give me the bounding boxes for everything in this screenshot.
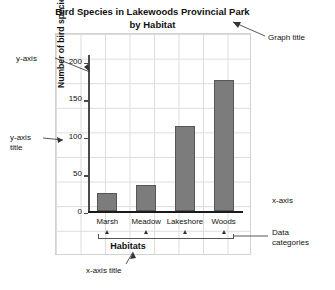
category-pointer-icon bbox=[105, 230, 109, 234]
x-axis-category-label: Marsh bbox=[97, 217, 119, 226]
graph-title-line-2: by Habitat bbox=[40, 18, 265, 31]
category-pointer-icon bbox=[222, 230, 226, 234]
x-axis-title: Habitats bbox=[110, 241, 146, 251]
bar bbox=[175, 126, 195, 211]
category-pointer-icon bbox=[144, 230, 148, 234]
bar bbox=[97, 193, 117, 212]
y-axis-tick-label: 0 bbox=[78, 207, 82, 216]
category-pointer-icon bbox=[183, 230, 187, 234]
bar-series bbox=[88, 55, 243, 211]
data-categories-bracket bbox=[98, 234, 234, 239]
graph-title: Bird Species in Lakewoods Provincial Par… bbox=[40, 5, 265, 31]
bar bbox=[214, 80, 234, 212]
bar bbox=[136, 185, 156, 211]
y-axis-tick-label: 100 bbox=[69, 132, 82, 141]
annotation-y-axis-title: y-axis title bbox=[10, 133, 31, 153]
x-axis-line bbox=[88, 211, 243, 213]
graph-title-line-1: Bird Species in Lakewoods Provincial Par… bbox=[40, 5, 265, 18]
y-axis-tick-mark bbox=[84, 213, 88, 214]
x-axis-category-label: Woods bbox=[212, 217, 236, 226]
plot-area: 050100150200 bbox=[88, 55, 243, 213]
annotation-graph-title: Graph title bbox=[268, 33, 305, 43]
y-axis-tick-label: 150 bbox=[69, 94, 82, 103]
y-axis-tick-label: 200 bbox=[69, 57, 82, 66]
x-axis-category-label: Meadow bbox=[131, 217, 160, 226]
chart-figure: Bird Species in Lakewoods Provincial Par… bbox=[0, 0, 335, 290]
y-axis-title: Number of bird species bbox=[56, 0, 66, 88]
annotation-x-axis: x-axis bbox=[272, 196, 293, 206]
y-axis-tick-mark bbox=[84, 138, 88, 139]
y-axis-tick-mark bbox=[84, 63, 88, 64]
annotation-y-axis: y-axis bbox=[16, 54, 37, 64]
y-axis-tick-label: 50 bbox=[73, 169, 82, 178]
annotation-data-categories: Data categories bbox=[272, 228, 309, 248]
y-axis-tick-mark bbox=[84, 175, 88, 176]
y-axis-tick-mark bbox=[84, 100, 88, 101]
annotation-x-axis-title: x-axis title bbox=[86, 266, 122, 276]
x-axis-category-label: Lakeshore bbox=[167, 217, 203, 226]
